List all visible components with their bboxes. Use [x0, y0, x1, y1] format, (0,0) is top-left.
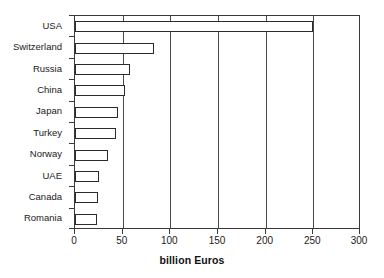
y-tick-label-romania: Romania [24, 213, 62, 223]
bar-row-switzerland [75, 37, 154, 58]
y-axis-labels: USA Switzerland Russia China Japan Turke… [0, 15, 68, 229]
x-tick-mark [312, 229, 313, 234]
bar-row-china [75, 80, 125, 101]
x-tick-label-250: 250 [304, 235, 321, 247]
y-tick-label-uae: UAE [42, 171, 62, 181]
x-tick-label-100: 100 [161, 235, 178, 247]
x-axis-title: billion Euros [0, 254, 384, 266]
y-tick-label-canada: Canada [29, 192, 62, 202]
x-tick-label-300: 300 [351, 235, 368, 247]
plot-area [74, 15, 360, 229]
bar-japan [75, 107, 118, 118]
bar-uae [75, 171, 99, 182]
y-tick-label-turkey: Turkey [33, 128, 62, 138]
x-tick-mark [359, 229, 360, 234]
bar-row-usa [75, 16, 313, 37]
x-tick-label-0: 0 [71, 235, 77, 247]
bar-usa [75, 21, 313, 32]
bar-russia [75, 64, 130, 75]
x-tick-label-150: 150 [209, 235, 226, 247]
x-tick-label-50: 50 [116, 235, 127, 247]
x-axis-labels: 0 50 100 150 200 250 300 [74, 235, 360, 249]
bar-row-uae [75, 166, 99, 187]
bar-row-japan [75, 102, 118, 123]
gridline-200 [266, 16, 267, 228]
y-tick-label-japan: Japan [36, 106, 62, 116]
bar-switzerland [75, 43, 154, 54]
x-tick-mark [217, 229, 218, 234]
bar-row-romania [75, 209, 97, 230]
gridline-100 [170, 16, 171, 228]
y-tick-label-russia: Russia [33, 64, 62, 74]
x-tick-mark [74, 229, 75, 234]
bar-row-norway [75, 144, 108, 165]
y-tick-label-switzerland: Switzerland [13, 42, 62, 52]
bar-canada [75, 192, 98, 203]
gridline-150 [218, 16, 219, 228]
bar-row-turkey [75, 123, 116, 144]
gridline-250 [313, 16, 314, 228]
bar-romania [75, 214, 97, 225]
y-tick-label-usa: USA [42, 21, 62, 31]
x-tick-mark [265, 229, 266, 234]
bar-turkey [75, 128, 116, 139]
bar-row-canada [75, 187, 98, 208]
bar-norway [75, 150, 108, 161]
bar-chart: USA Switzerland Russia China Japan Turke… [0, 0, 384, 278]
bar-china [75, 85, 125, 96]
x-tick-label-200: 200 [256, 235, 273, 247]
x-tick-mark [169, 229, 170, 234]
x-tick-mark [122, 229, 123, 234]
bar-row-russia [75, 59, 130, 80]
y-tick-label-china: China [37, 85, 62, 95]
y-tick-label-norway: Norway [30, 149, 62, 159]
